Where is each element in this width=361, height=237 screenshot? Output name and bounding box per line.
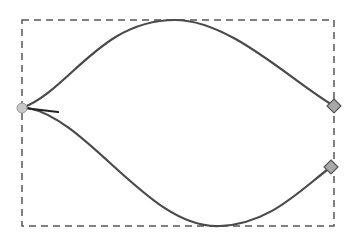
path-diagram <box>0 0 361 237</box>
bounding-box <box>22 20 334 226</box>
lower-curve-segment[interactable] <box>28 108 331 226</box>
diagram-canvas <box>0 0 361 237</box>
upper-curve-segment[interactable] <box>22 20 334 108</box>
diamond-node-icon[interactable] <box>327 99 341 113</box>
cusp-node-icon[interactable] <box>17 103 27 113</box>
